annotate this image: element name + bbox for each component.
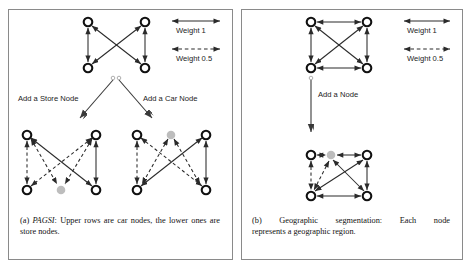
label-add-a-node: Add a Node [318, 90, 358, 99]
caption-panel-a: (a) PAGSI: Upper rows are car nodes, the… [20, 216, 220, 237]
caption-a-italic: PAGSI [33, 216, 55, 225]
caption-a-prefix: (a) [20, 216, 33, 225]
label-add-a-car-node: Add a Car Node [143, 94, 197, 103]
caption-panel-b: (b) Geographic segmentation: Each nodere… [252, 216, 450, 237]
caption-b-line1: Geographic segmentation: Each node [279, 216, 450, 225]
label-add-a-store-node: Add a Store Node [18, 94, 78, 103]
footer-cutoff-text [6, 266, 462, 271]
legend-b-weight-half-label: Weight 0.5 [407, 54, 443, 63]
legend-b-weight-1-label: Weight 1 [407, 26, 437, 35]
figure-root: Weight 1 Weight 0.5 Weight 1 Weight 0.5 … [0, 0, 468, 272]
legend-a-weight-half-label: Weight 0.5 [176, 54, 212, 63]
caption-b-prefix: (b) [252, 216, 279, 225]
caption-b-line2: represents a geographic region. [252, 227, 356, 236]
legend-a-weight-1-label: Weight 1 [176, 26, 206, 35]
